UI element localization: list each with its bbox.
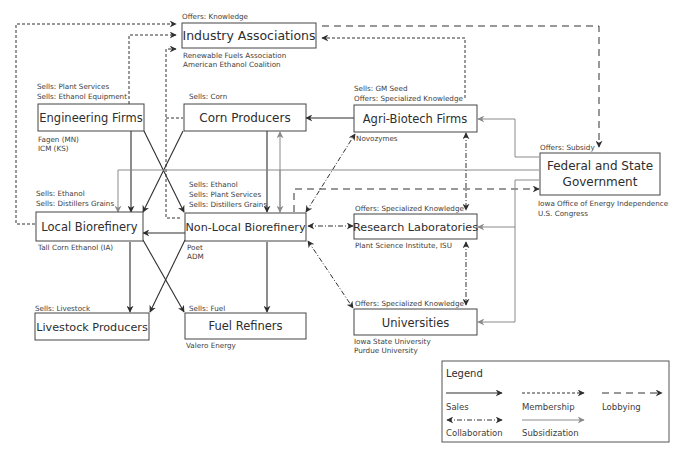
government-note-below-1: U.S. Congress (538, 209, 588, 218)
nonlocal-note-below-1: ADM (187, 252, 204, 261)
local-note-below-0: Tall Corn Ethanol (IA) (37, 243, 113, 252)
research-note-above-0: Offers: Specialized Knowledge (355, 204, 464, 213)
engineering-note-below-1: ICM (KS) (38, 144, 69, 153)
legend-lobbying-label: Lobbying (602, 402, 641, 412)
node-research-laboratories[interactable]: Offers: Specialized Knowledge Research L… (353, 204, 478, 250)
industry-note-above-0: Offers: Knowledge (182, 12, 249, 21)
edge-government-to-research (478, 180, 539, 227)
agribiotech-note-below-0: Novozymes (356, 134, 398, 143)
node-livestock-producers[interactable]: Sells: Livestock Livestock Producers (35, 304, 149, 340)
edge-nonlocal-to-industry (166, 49, 180, 218)
nonlocal-note-above-2: Sells: Distillers Grains (189, 200, 267, 209)
corn-note-above-0: Sells: Corn (189, 92, 227, 101)
local-note-above-1: Sells: Distillers Grains (36, 199, 114, 208)
node-nonlocal-biorefinery[interactable]: Sells: Ethanol Sells: Plant Services Sel… (185, 180, 306, 261)
node-engineering-firms[interactable]: Sells: Plant Services Sells: Ethanol Equ… (37, 82, 144, 153)
edge-government-to-universities (478, 227, 515, 322)
edge-nonlocal-agribiotech (306, 134, 355, 212)
universities-label: Universities (382, 316, 449, 330)
edge-nonlocal-to-livestock (150, 240, 185, 312)
legend-membership-label: Membership (522, 402, 575, 412)
nonlocal-note-above-1: Sells: Plant Services (189, 190, 261, 199)
government-note-above-0: Offers: Subsidy (540, 143, 595, 152)
edges (16, 24, 599, 322)
government-note-below-0: Iowa Office of Energy Independence (538, 199, 669, 208)
ethanol-network-diagram: Offers: Knowledge Industry Associations … (0, 0, 683, 454)
research-label: Research Laboratories (353, 221, 478, 234)
livestock-label: Livestock Producers (36, 321, 148, 334)
engineering-note-below-0: Fagen (MN) (38, 135, 79, 144)
agribiotech-note-above-1: Offers: Specialized Knowledge (354, 94, 463, 103)
agribiotech-note-above-0: Sells: GM Seed (354, 84, 407, 93)
engineering-note-above-1: Sells: Ethanol Equipment (37, 92, 127, 101)
agribiotech-label: Agri-Biotech Firms (363, 112, 468, 126)
engineering-label: Engineering Firms (39, 111, 142, 125)
universities-note-below-0: Iowa State University (354, 337, 431, 346)
local-note-above-0: Sells: Ethanol (36, 189, 85, 198)
research-note-below-0: Plant Science Institute, ISU (355, 241, 452, 250)
corn-label: Corn Producers (199, 111, 290, 125)
legend-subsidization-label: Subsidization (522, 428, 579, 438)
engineering-note-above-0: Sells: Plant Services (37, 82, 109, 91)
node-agribiotech-firms[interactable]: Sells: GM Seed Offers: Specialized Knowl… (354, 84, 477, 143)
legend: Legend Sales Membership Lobbying Collabo… (442, 361, 669, 442)
legend-sales-label: Sales (446, 402, 469, 412)
node-government[interactable]: Offers: Subsidy Federal and State Govern… (538, 143, 669, 218)
industry-note-below-0: Renewable Fuels Association (183, 51, 286, 60)
nonlocal-note-above-0: Sells: Ethanol (189, 180, 238, 189)
edge-government-to-agribiotech (478, 119, 539, 157)
livestock-note-above-0: Sells: Livestock (35, 304, 91, 313)
local-label: Local Biorefinery (41, 220, 137, 234)
edge-engineering-to-industry (129, 35, 176, 104)
node-fuel-refiners[interactable]: Sells: Fuel Fuel Refiners Valero Energy (185, 304, 306, 350)
edge-local-to-fuel (143, 240, 184, 312)
fuel-label: Fuel Refiners (208, 319, 282, 333)
industry-note-below-1: American Ethanol Coalition (183, 60, 281, 69)
nonlocal-label: Non-Local Biorefinery (186, 221, 306, 234)
legend-title: Legend (446, 368, 483, 379)
node-local-biorefinery[interactable]: Sells: Ethanol Sells: Distillers Grains … (36, 189, 143, 252)
node-industry-associations[interactable]: Offers: Knowledge Industry Associations … (182, 12, 316, 69)
edge-engineering-to-nonlocal (144, 131, 184, 212)
universities-note-above-0: Offers: Specialized Knowledge (355, 299, 464, 308)
fuel-note-below-0: Valero Energy (186, 341, 237, 350)
industry-label: Industry Associations (182, 28, 315, 43)
nonlocal-note-below-0: Poet (187, 243, 203, 252)
edge-nonlocal-universities (308, 241, 353, 308)
fuel-note-above-0: Sells: Fuel (189, 304, 225, 313)
node-corn-producers[interactable]: Sells: Corn Corn Producers (184, 92, 306, 131)
government-label-line-1: Government (563, 175, 638, 189)
node-universities[interactable]: Offers: Specialized Knowledge Universiti… (354, 299, 477, 355)
edge-corn-to-local (143, 131, 183, 212)
universities-note-below-1: Purdue University (354, 346, 418, 355)
legend-collaboration-label: Collaboration (446, 428, 503, 438)
government-label-line-0: Federal and State (547, 159, 653, 173)
